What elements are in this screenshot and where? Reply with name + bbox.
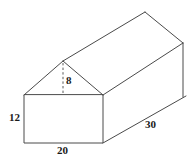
- dimension-label-height: 12: [9, 112, 20, 123]
- prism-drawing: [0, 0, 193, 165]
- front-triangle-roof-left-slope: [24, 61, 63, 95]
- back-roof-right-slope: [145, 12, 183, 43]
- roof-ridge-line: [63, 12, 145, 61]
- dimension-label-width: 20: [57, 145, 68, 156]
- right-roof-eave-edge: [103, 43, 183, 95]
- dimension-label-altitude: 8: [66, 75, 72, 86]
- front-face-rectangle: [24, 95, 103, 143]
- figure-canvas: 12 20 8 30: [0, 0, 193, 165]
- dimension-label-depth: 30: [145, 119, 156, 130]
